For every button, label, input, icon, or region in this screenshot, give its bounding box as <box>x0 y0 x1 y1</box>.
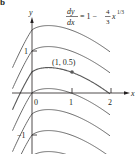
y-axis-arrow-icon <box>30 17 33 23</box>
solution-curves <box>13 26 111 154</box>
eq-frac-num: 4 <box>106 8 110 16</box>
solution-curve <box>13 110 111 152</box>
x-tick-label-1: 1 <box>69 98 73 107</box>
eq-numerator: dy <box>67 7 75 16</box>
eq-frac-den: 3 <box>106 18 110 26</box>
differential-equation: dy dx = 1 − 4 3 x 1/3 <box>66 7 124 27</box>
panel-label: b <box>0 0 5 7</box>
solution-curve <box>13 89 111 131</box>
y-tick-label-1: 1 <box>24 47 28 56</box>
x-axis-arrow-icon <box>124 91 130 94</box>
point-marker <box>70 70 74 74</box>
eq-denominator: dx <box>67 18 75 27</box>
x-tick-label-0: 0 <box>34 98 38 107</box>
eq-exponent: 1/3 <box>117 9 124 15</box>
eq-rhs-prefix: = 1 − <box>80 12 98 21</box>
slope-field-figure: b y x 0 1 2 1 −1 (1, 0.5) dy dx = 1 − 4 … <box>0 0 137 154</box>
y-axis-label: y <box>28 8 33 17</box>
point-label: (1, 0.5) <box>52 58 76 67</box>
y-tick-label-neg1: −1 <box>17 131 26 140</box>
eq-var: x <box>111 12 116 21</box>
x-tick-label-2: 2 <box>108 98 112 107</box>
solution-curve <box>13 68 111 110</box>
solution-curve <box>13 152 111 154</box>
x-axis-label: x <box>130 89 135 98</box>
solution-curve <box>13 131 111 154</box>
